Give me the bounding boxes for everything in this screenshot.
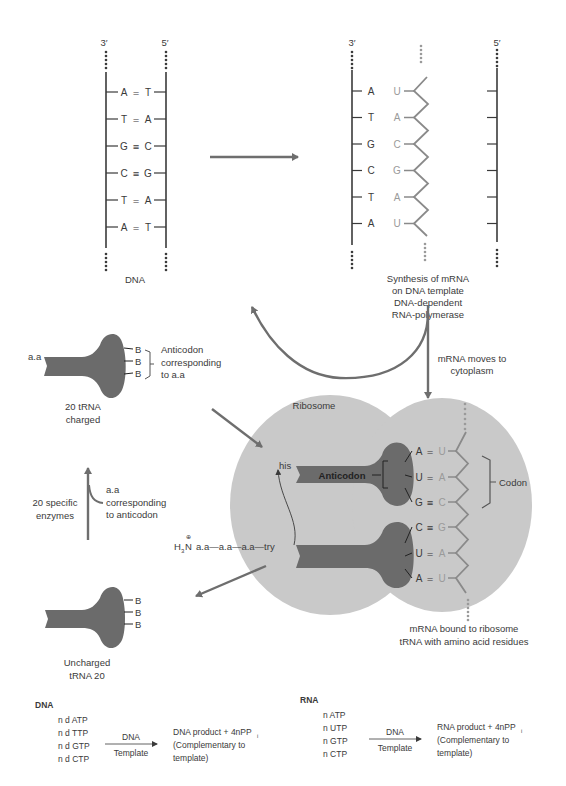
dot	[424, 259, 427, 262]
dna-strand-continuation-dots	[105, 51, 168, 272]
hydrogen-bond: ≡	[426, 523, 433, 533]
mrna-base: A	[439, 472, 446, 483]
dot	[420, 61, 423, 64]
dot	[105, 55, 108, 58]
dot	[467, 607, 470, 610]
mrna-base: G	[438, 522, 446, 533]
reactant: n UTP	[323, 723, 347, 733]
arrow-label-top: DNA	[386, 727, 404, 737]
anticodon-note: Anticodoncorrespondingto a.a	[161, 344, 221, 380]
dot	[351, 259, 354, 262]
template-base: G	[367, 139, 375, 150]
caption-line: enzymes	[36, 510, 74, 521]
dot	[464, 413, 467, 416]
template-3prime-label: 3′	[348, 37, 355, 48]
dot	[165, 59, 168, 62]
dot	[351, 67, 354, 70]
base-left: C	[120, 168, 127, 179]
dot	[165, 67, 168, 70]
dot	[467, 599, 470, 602]
dot	[424, 247, 427, 250]
dot	[496, 65, 499, 68]
caption-line: to a.a	[161, 369, 185, 380]
mrna-base: C	[438, 497, 445, 508]
arrow-label-bottom: Template	[114, 748, 149, 758]
hydrogen-bond: ≡	[132, 169, 139, 179]
dot	[496, 253, 499, 256]
base-right: A	[145, 114, 152, 125]
caption-line: mRNA moves to	[438, 353, 507, 364]
base-right: T	[145, 222, 151, 233]
trna-base: U	[415, 548, 422, 559]
dot	[420, 57, 423, 60]
template-base: T	[368, 192, 374, 203]
charged-anticodon-bases: BBB	[124, 344, 141, 379]
mrna-base: A	[394, 192, 401, 203]
product-line: template)	[173, 753, 209, 763]
caption-line: 20 tRNA	[65, 401, 102, 412]
anticodon-base: B	[135, 619, 141, 630]
mrna-base: G	[393, 165, 401, 176]
dot	[351, 55, 354, 58]
mrna-base: A	[394, 112, 401, 123]
his-label: his	[279, 460, 291, 471]
caption-line: mRNA bound to ribosome	[410, 623, 519, 634]
dot	[496, 61, 499, 64]
uncharged-anticodon-bases: BBB	[124, 595, 141, 630]
dot	[105, 269, 108, 272]
reactant: n CTP	[323, 749, 347, 759]
dot	[105, 63, 108, 66]
mrna-base: U	[438, 446, 445, 457]
caption-line: corresponding	[161, 357, 221, 368]
caption-line: cytoplasm	[451, 365, 494, 376]
ammonium-n: N	[185, 541, 192, 552]
dot	[351, 59, 354, 62]
caption-line: Uncharged	[64, 657, 110, 668]
base-left: A	[121, 222, 128, 233]
dot	[351, 51, 354, 54]
dot	[165, 55, 168, 58]
reactant: n d TTP	[58, 728, 88, 738]
caption-line: tRNA with amino acid residues	[400, 636, 529, 647]
base-right: G	[144, 168, 152, 179]
mrna-base: U	[438, 573, 445, 584]
trna-base: A	[416, 573, 423, 584]
amino-acid-join-curve	[89, 485, 103, 503]
product-line: template)	[437, 748, 473, 758]
dot	[496, 261, 499, 264]
dot	[105, 265, 108, 268]
dot	[496, 53, 499, 56]
anticodon-base: B	[135, 344, 141, 355]
dot	[105, 257, 108, 260]
dot	[165, 265, 168, 268]
protein-synthesis-diagram: 3′ 5′ A=TT=AG≡CC≡GT=AA=T DNA 3′ 5′ AUTAG…	[0, 0, 566, 786]
dot	[496, 249, 499, 252]
product-line: RNA product + 4nPP	[437, 722, 516, 732]
dot	[105, 59, 108, 62]
base-stub	[124, 348, 133, 349]
caption-line: corresponding	[106, 497, 166, 508]
trna-base: U	[415, 472, 422, 483]
hydrogen-bond: =	[132, 88, 139, 98]
mrna-base: U	[393, 218, 400, 229]
charged-trna: a.a BBB Anticodoncorrespondingto a.a 20 …	[28, 334, 221, 424]
dot	[464, 418, 467, 421]
dot	[424, 243, 427, 246]
hydrogen-bond: =	[426, 473, 433, 483]
ribosome-caption: mRNA bound to ribosometRNA with amino ac…	[400, 623, 529, 647]
base-left: A	[121, 87, 128, 98]
caption-line: Synthesis of mRNA	[387, 273, 470, 284]
dna-3prime-label: 3′	[100, 37, 107, 48]
ribosome: Ribosome Anticodon his H 3 N ⊕ a.a—a.a—a…	[174, 395, 532, 647]
mrna-base: A	[439, 548, 446, 559]
dot	[496, 49, 499, 52]
charged-trna-caption: 20 tRNAcharged	[65, 401, 102, 425]
trna-charged-shape	[44, 334, 126, 398]
template-base: T	[368, 112, 374, 123]
mrna-base: U	[393, 86, 400, 97]
positive-charge-icon: ⊕	[186, 534, 191, 540]
base-right: T	[145, 87, 151, 98]
charged-trna-to-ribosome-arrow	[212, 409, 262, 447]
dot	[351, 255, 354, 258]
dot	[467, 603, 470, 606]
